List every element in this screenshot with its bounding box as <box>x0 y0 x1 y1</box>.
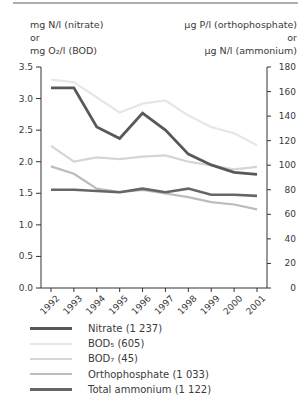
legend-label: Nitrate (1 237) <box>88 323 162 334</box>
chart-legend: Nitrate (1 237)BOD₅ (605)BOD₇ (45)Orthop… <box>30 321 211 397</box>
right-axis-tick-label: 180 <box>279 62 296 72</box>
legend-swatch <box>30 373 72 376</box>
right-axis-tick-label: 60 <box>285 209 297 219</box>
right-axis-tick-label: 80 <box>285 185 297 195</box>
legend-swatch <box>30 358 72 361</box>
legend-label: Orthophosphate (1 033) <box>88 369 209 380</box>
chart-panel: mg N/l (nitrate) or mg O₂/l (BOD) µg P/l… <box>0 0 306 408</box>
left-axis-tick-label: 3.5 <box>19 62 33 72</box>
series-line-bod7 <box>51 146 257 169</box>
right-axis-tick-label: 100 <box>279 160 296 170</box>
right-axis-tick-label: 20 <box>285 258 297 268</box>
legend-swatch <box>30 343 72 346</box>
x-axis-year-label: 2001 <box>244 293 267 316</box>
legend-label: Total ammonium (1 122) <box>88 384 211 395</box>
legend-item: Nitrate (1 237) <box>30 321 211 336</box>
x-axis-year-label: 1993 <box>61 293 84 316</box>
line-chart-canvas: 0.00.51.01.52.02.53.03.50204060801001201… <box>0 0 306 320</box>
axes-frame <box>41 67 267 288</box>
x-axis-year-label: 1997 <box>153 293 176 316</box>
x-axis-year-label: 1998 <box>175 293 198 316</box>
x-axis-year-label: 1999 <box>198 293 221 316</box>
series-line-orthophosphate <box>51 166 257 209</box>
left-axis-tick-label: 2.5 <box>19 125 33 135</box>
legend-item: BOD₅ (605) <box>30 336 211 351</box>
left-axis-tick-label: 3.0 <box>19 94 34 104</box>
series-line-bod5 <box>51 80 257 146</box>
legend-item: BOD₇ (45) <box>30 351 211 366</box>
x-axis-year-label: 1994 <box>84 293 107 316</box>
legend-swatch <box>30 388 72 391</box>
legend-item: Orthophosphate (1 033) <box>30 367 211 382</box>
left-axis-tick-label: 2.0 <box>19 157 34 167</box>
left-axis-tick-label: 0.5 <box>19 251 33 261</box>
legend-label: BOD₅ (605) <box>88 338 144 349</box>
x-axis-year-label: 2000 <box>221 293 244 316</box>
x-axis-year-label: 1995 <box>107 293 130 316</box>
legend-swatch <box>30 327 72 330</box>
right-axis-tick-label: 0 <box>290 283 296 293</box>
right-axis-tick-label: 40 <box>285 234 297 244</box>
right-axis-tick-label: 140 <box>279 111 296 121</box>
left-axis-tick-label: 1.5 <box>19 188 33 198</box>
right-axis-tick-label: 160 <box>279 87 296 97</box>
left-axis-tick-label: 0.0 <box>19 283 34 293</box>
legend-item: Total ammonium (1 122) <box>30 382 211 397</box>
right-axis-tick-label: 120 <box>279 136 296 146</box>
left-axis-tick-label: 1.0 <box>19 220 34 230</box>
x-axis-year-label: 1996 <box>130 293 153 316</box>
legend-label: BOD₇ (45) <box>88 353 138 364</box>
x-axis-year-label: 1992 <box>38 293 61 316</box>
